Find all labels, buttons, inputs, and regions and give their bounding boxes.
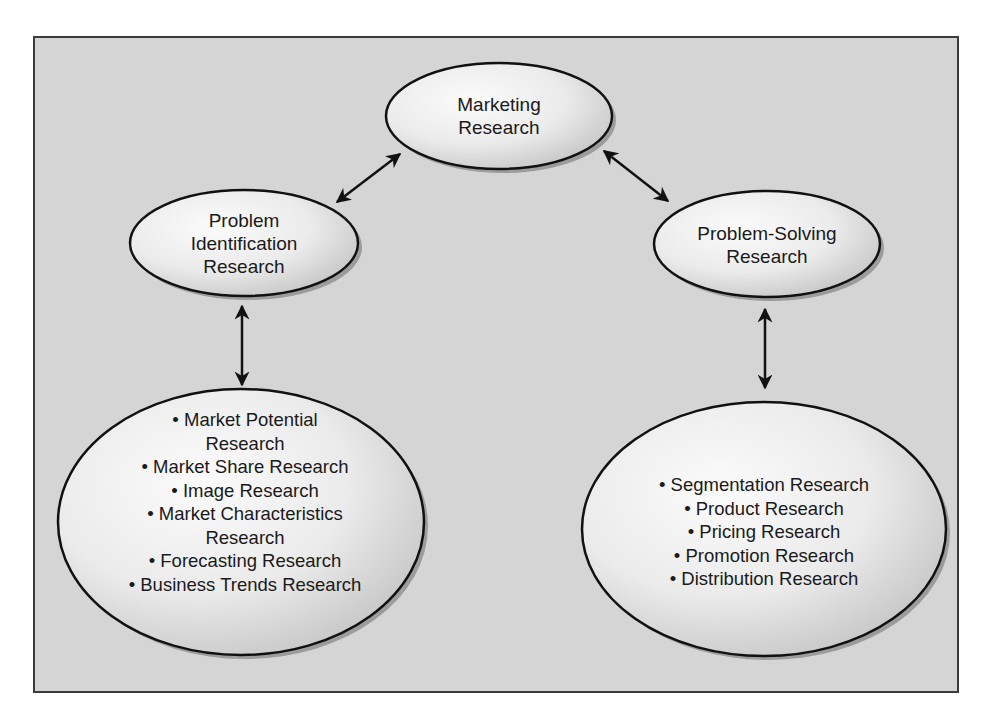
list-item-text: • Business Trends Research [129,574,362,595]
list-item-text: • Image Research [171,480,318,501]
list-item-text: • Market Characteristics [147,503,343,524]
problem-solving-label: Problem-Solving Research [697,222,836,268]
label-line: Identification [191,232,298,255]
list-item: • Market Share Research [129,455,362,479]
label-line: Research [191,255,298,278]
list-item: • Segmentation Research [659,473,869,497]
list-item: • Distribution Research [659,567,869,591]
list-item: • Market Characteristics Research [129,502,362,549]
label-line: Research [697,245,836,268]
arrow-marketing-to-identification [337,154,400,202]
list-item-text: • Segmentation Research [659,474,869,495]
list-item-text: • Pricing Research [688,521,840,542]
list-item: • Market Potential Research [129,408,362,455]
list-item: • Image Research [129,479,362,503]
problem-identification-label: Problem Identification Research [191,209,298,278]
problem-identification-types-list: • Market Potential Research • Market Sha… [129,408,362,596]
list-item-text: • Distribution Research [670,568,858,589]
list-item-text: • Product Research [684,498,844,519]
arrow-marketing-to-solving [604,151,668,201]
list-item: • Forecasting Research [129,549,362,573]
list-item-text: • Promotion Research [674,545,854,566]
label-line: Problem-Solving [697,222,836,245]
label-line: Marketing [457,93,540,116]
list-item: • Product Research [659,497,869,521]
list-item-text: • Market Share Research [142,456,349,477]
list-item: • Pricing Research [659,520,869,544]
list-item: • Business Trends Research [129,573,362,597]
label-line: Problem [191,209,298,232]
list-item: • Promotion Research [659,544,869,568]
list-item-text: • Market Potential [172,409,317,430]
marketing-research-label: Marketing Research [457,93,540,139]
problem-solving-types-list: • Segmentation Research • Product Resear… [659,473,869,591]
list-item-text: • Forecasting Research [149,550,342,571]
list-item-continuation: Research [129,526,362,550]
label-line: Research [457,116,540,139]
list-item-continuation: Research [129,432,362,456]
